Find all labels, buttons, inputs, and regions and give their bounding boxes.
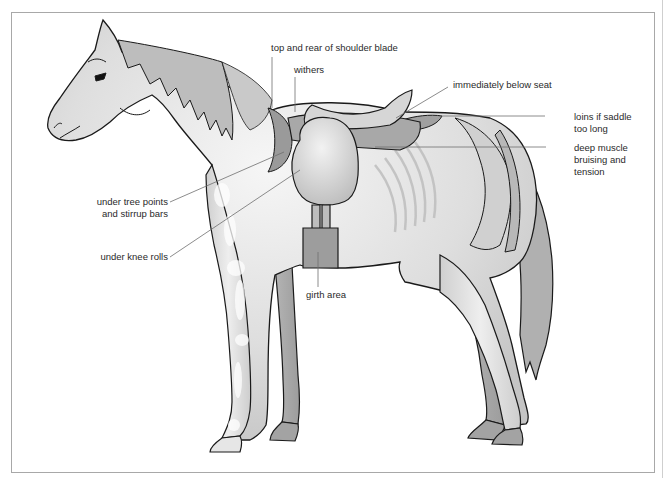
girth [303,228,338,268]
label-girth-area: girth area [306,289,346,301]
label-loins: loins if saddle too long [574,111,632,135]
label-tree-points: under tree points and stirrup bars [80,196,168,220]
label-below-seat: immediately below seat [453,79,552,91]
near-fore-hoof [210,436,242,452]
label-withers: withers [294,64,324,76]
far-fore-leg [270,265,300,441]
horse-illustration [0,0,667,478]
label-deep-muscle: deep muscle bruising and tension [574,142,628,178]
saddle-flap [292,117,358,205]
label-shoulder-blade: top and rear of shoulder blade [271,42,398,54]
label-knee-rolls: under knee rolls [80,251,168,263]
